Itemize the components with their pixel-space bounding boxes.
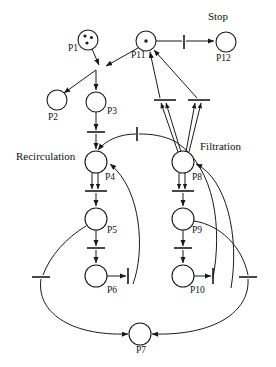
place-P5[interactable]: P5 bbox=[85, 208, 117, 235]
arc-tmid-p4 bbox=[98, 134, 136, 150]
place-P7[interactable]: P7 bbox=[129, 323, 151, 355]
place-P8[interactable]: P8 bbox=[172, 151, 202, 182]
place-label-P3: P3 bbox=[107, 106, 117, 116]
place-circle-P9[interactable] bbox=[172, 208, 194, 230]
place-label-P7: P7 bbox=[136, 345, 146, 355]
place-circle-P12[interactable] bbox=[216, 32, 236, 52]
place-circle-P6[interactable] bbox=[85, 265, 107, 287]
place-circle-P5[interactable] bbox=[85, 208, 107, 230]
place-P12[interactable]: P12 bbox=[216, 32, 236, 63]
place-label-P2: P2 bbox=[48, 112, 58, 122]
place-label-P10: P10 bbox=[190, 285, 205, 295]
caption-filtration: Filtration bbox=[200, 140, 241, 152]
arc-p1-junction bbox=[92, 49, 99, 65]
place-circle-P1[interactable] bbox=[78, 30, 98, 50]
arc-p8-tupl-a bbox=[161, 103, 178, 152]
place-circle-P4[interactable] bbox=[85, 151, 107, 173]
arc-p9-tbr bbox=[194, 221, 248, 275]
place-label-P9: P9 bbox=[192, 225, 202, 235]
place-layer: P1 P2 P3 P4 P5 P6 P7 P8 bbox=[47, 30, 236, 355]
arc-junction-p2 bbox=[64, 70, 96, 93]
token-P1-2 bbox=[90, 36, 93, 39]
place-label-P12: P12 bbox=[216, 53, 231, 63]
place-P11[interactable]: P11 bbox=[131, 31, 156, 60]
place-circle-P2[interactable] bbox=[47, 90, 67, 110]
place-label-P6: P6 bbox=[107, 285, 117, 295]
arc-tupr-p11 bbox=[154, 50, 197, 98]
caption-layer: Stop Recirculation Filtration bbox=[16, 10, 241, 162]
place-label-P4: P4 bbox=[105, 172, 115, 182]
token-P11-1 bbox=[144, 39, 147, 42]
place-P3[interactable]: P3 bbox=[86, 92, 117, 116]
petri-net-diagram: P1 P2 P3 P4 P5 P6 P7 P8 bbox=[0, 0, 276, 367]
place-P6[interactable]: P6 bbox=[85, 265, 117, 295]
place-circle-P10[interactable] bbox=[172, 265, 194, 287]
place-label-P1: P1 bbox=[68, 43, 78, 53]
place-circle-P7[interactable] bbox=[129, 323, 151, 345]
arc-p5-tbl bbox=[43, 226, 86, 275]
arc-loop-p4 bbox=[110, 164, 139, 284]
place-P1[interactable]: P1 bbox=[68, 30, 98, 53]
place-P10[interactable]: P10 bbox=[172, 265, 205, 295]
place-circle-P8[interactable] bbox=[172, 151, 194, 173]
place-P4[interactable]: P4 bbox=[85, 151, 115, 182]
place-label-P11: P11 bbox=[131, 50, 146, 60]
caption-stop: Stop bbox=[208, 10, 229, 22]
arc-p8-tupl-b bbox=[166, 103, 181, 152]
place-P2[interactable]: P2 bbox=[47, 90, 67, 122]
place-circle-P3[interactable] bbox=[86, 92, 106, 112]
place-label-P5: P5 bbox=[107, 225, 117, 235]
arc-tupl-p11 bbox=[150, 52, 160, 98]
token-P1-1 bbox=[83, 34, 86, 37]
arc-layer bbox=[41, 41, 249, 334]
caption-recirculation: Recirculation bbox=[16, 150, 76, 162]
token-P1-3 bbox=[85, 41, 88, 44]
place-label-P8: P8 bbox=[192, 172, 202, 182]
